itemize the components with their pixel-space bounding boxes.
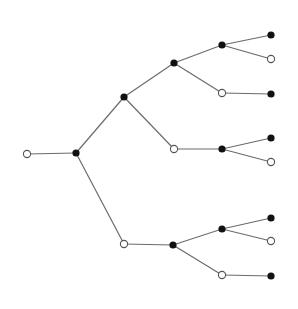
open-node	[267, 55, 274, 62]
tree-edge	[27, 153, 76, 154]
filled-node	[169, 241, 176, 248]
tree-edge	[124, 244, 173, 245]
filled-node	[267, 31, 274, 38]
tree-edge	[174, 63, 222, 93]
tree-edge	[76, 153, 124, 244]
tree-edge	[222, 35, 271, 45]
tree-edge	[124, 97, 174, 149]
tree-edge	[222, 45, 271, 59]
tree-edge	[76, 97, 124, 153]
open-node	[218, 271, 225, 278]
filled-node	[267, 272, 274, 279]
tree-edge	[174, 45, 222, 63]
filled-node	[267, 214, 274, 221]
filled-node	[267, 134, 274, 141]
tree-edge	[222, 149, 271, 162]
open-node	[267, 158, 274, 165]
filled-node	[218, 145, 225, 152]
tree-edge	[222, 93, 271, 94]
tree-nodes	[23, 31, 274, 279]
open-node	[23, 150, 30, 157]
filled-node	[170, 59, 177, 66]
open-node	[170, 145, 177, 152]
tree-edge	[222, 275, 271, 276]
open-node	[218, 89, 225, 96]
filled-node	[218, 41, 225, 48]
tree-edge	[173, 229, 222, 245]
tree-edge	[222, 138, 271, 149]
tree-edge	[222, 229, 271, 241]
tree-edge	[173, 245, 222, 275]
open-node	[120, 240, 127, 247]
tree-edges	[27, 35, 271, 276]
filled-node	[120, 93, 127, 100]
open-node	[267, 237, 274, 244]
filled-node	[218, 225, 225, 232]
filled-node	[267, 90, 274, 97]
tree-edge	[222, 218, 271, 229]
tree-edge	[124, 63, 174, 97]
tree-diagram	[0, 0, 298, 309]
filled-node	[72, 149, 79, 156]
